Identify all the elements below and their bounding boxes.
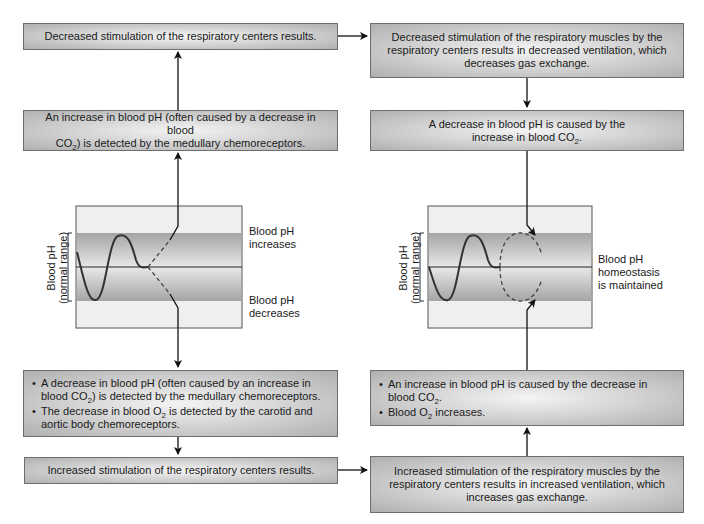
label-blood-ph-increases: Blood pH increases <box>249 225 319 251</box>
label-ph-homeostasis: Blood pH homeostasis is maintained <box>598 253 668 292</box>
box-text: A decrease in blood pH is caused by the … <box>411 118 643 144</box>
box-text-line1: An increase in blood pH (often caused by… <box>34 111 327 137</box>
bullet-list: An increase in blood pH is caused by the… <box>379 376 675 421</box>
bullet-item: A decrease in blood pH (often caused by … <box>32 377 329 403</box>
bullet-item: Blood O2 increases. <box>379 406 675 419</box>
bullet-item: An increase in blood pH is caused by the… <box>379 378 675 404</box>
axis-label-right: Blood pH (normal range) <box>397 220 423 316</box>
box-text: Decreased stimulation of the respiratory… <box>44 30 316 43</box>
box-text-line2: CO2) is detected by the medullary chemor… <box>56 137 306 150</box>
box-text: Increased stimulation of the respiratory… <box>47 464 314 477</box>
bullet-item: The decrease in blood O2 is detected by … <box>32 405 329 431</box>
left-ph-diagram <box>68 206 242 328</box>
box-decreased-stimulation-centers: Decreased stimulation of the respiratory… <box>23 23 338 50</box>
box-decrease-blood-ph-caused: A decrease in blood pH is caused by the … <box>370 110 684 151</box>
box-increased-stimulation-muscles: Increased stimulation of the respiratory… <box>370 456 684 513</box>
box-text: Decreased stimulation of the respiratory… <box>381 31 673 70</box>
axis-label-left: Blood pH (normal range) <box>45 220 71 316</box>
label-blood-ph-decreases: Blood pH decreases <box>249 294 319 320</box>
box-decreased-stimulation-muscles: Decreased stimulation of the respiratory… <box>370 23 684 78</box>
right-ph-diagram <box>420 150 592 370</box>
box-increase-blood-ph-detected: An increase in blood pH (often caused by… <box>23 110 338 151</box>
bullet-list: A decrease in blood pH (often caused by … <box>32 375 329 433</box>
box-text: Increased stimulation of the respiratory… <box>381 465 673 504</box>
box-increased-stimulation-centers: Increased stimulation of the respiratory… <box>24 457 338 484</box>
box-decrease-blood-ph-detected: A decrease in blood pH (often caused by … <box>23 370 338 437</box>
box-increase-blood-ph-caused: An increase in blood pH is caused by the… <box>370 370 684 426</box>
